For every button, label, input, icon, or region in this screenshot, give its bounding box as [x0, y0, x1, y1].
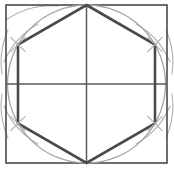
geometric-construction-diagram	[0, 0, 174, 171]
geometry-figure-container	[0, 0, 174, 171]
